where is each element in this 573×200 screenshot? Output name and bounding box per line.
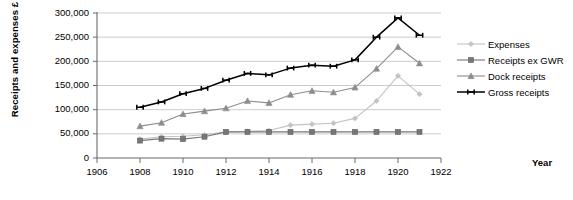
data-point-diamond [331, 121, 336, 126]
legend-item-gross-receipts[interactable]: Gross receipts [456, 84, 573, 100]
data-point-diamond [309, 122, 314, 127]
chart-container: Receipts and expenses £ Year 050,000100,… [0, 0, 573, 200]
gridlines [97, 13, 441, 134]
data-point-square [469, 58, 474, 63]
data-point-bowtie [201, 86, 207, 91]
legend-key-graphic [456, 84, 486, 100]
data-point-square [288, 129, 293, 134]
data-point-square [396, 129, 401, 134]
data-point-bowtie [287, 66, 293, 71]
data-point-bowtie [223, 78, 229, 83]
legend-marker-bowtie-icon [456, 84, 486, 100]
legend-label: Dock receipts [486, 71, 546, 82]
y-tick-marks [93, 13, 97, 158]
data-point-bowtie [330, 64, 336, 69]
data-point-bowtie [244, 71, 250, 76]
data-point-square [417, 129, 422, 134]
series-dock-receipts [137, 44, 423, 129]
data-point-square [267, 129, 272, 134]
legend-item-dock-receipts[interactable]: Dock receipts [456, 68, 573, 84]
data-point-square [331, 129, 336, 134]
series-gross-receipts [137, 15, 423, 109]
legend-label: Receipts ex GWR [486, 55, 564, 66]
data-point-square [353, 129, 358, 134]
data-point-bowtie [158, 100, 164, 105]
legend-item-receipts-ex-gwr[interactable]: Receipts ex GWR [456, 52, 573, 68]
legend-marker-triangle-icon [456, 68, 486, 84]
data-point-square [310, 129, 315, 134]
data-point-bowtie [180, 91, 186, 96]
bottom-edge-artifact [0, 196, 260, 200]
data-point-square [181, 137, 186, 142]
plot-area [0, 0, 573, 200]
data-point-square [138, 138, 143, 143]
x-tick-marks [97, 158, 441, 163]
legend-key-graphic [456, 36, 486, 52]
legend-key-graphic [456, 52, 486, 68]
legend-label: Gross receipts [486, 87, 549, 98]
data-point-square [245, 129, 250, 134]
chart-legend: ExpensesReceipts ex GWRDock receiptsGros… [456, 36, 573, 100]
data-point-diamond [468, 41, 473, 46]
data-point-square [224, 129, 229, 134]
data-point-square [159, 136, 164, 141]
data-point-triangle [395, 44, 401, 50]
data-point-triangle [158, 120, 164, 126]
data-point-square [202, 134, 207, 139]
legend-label: Expenses [486, 39, 530, 50]
data-point-square [374, 129, 379, 134]
legend-marker-diamond-icon [456, 36, 486, 52]
data-point-diamond [288, 123, 293, 128]
data-point-bowtie [266, 72, 272, 77]
data-point-bowtie [309, 63, 315, 68]
axis-lines [97, 12, 441, 158]
legend-item-expenses[interactable]: Expenses [456, 36, 573, 52]
data-point-bowtie [137, 105, 143, 110]
data-point-bowtie [468, 90, 474, 95]
legend-key-graphic [456, 68, 486, 84]
legend-marker-square-icon [456, 52, 486, 68]
